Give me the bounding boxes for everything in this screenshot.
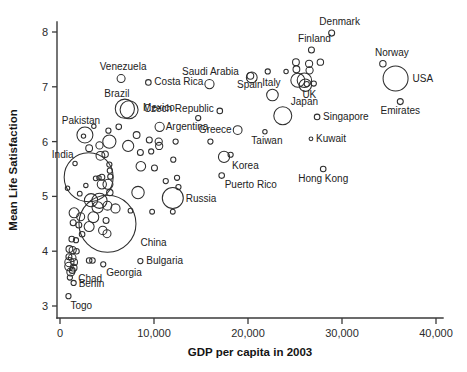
data-point-bubble	[96, 142, 103, 149]
data-point-bubble	[70, 220, 76, 226]
y-axis-tick-label: 6	[42, 136, 48, 148]
data-point-bubble-mexico	[120, 101, 138, 119]
x-axis-tick-label: 40,000	[419, 327, 453, 339]
data-point-bubble	[92, 202, 103, 213]
data-point-bubble	[97, 180, 106, 189]
data-point-bubble-china	[79, 195, 136, 252]
data-point-bubble	[69, 208, 79, 218]
data-point-bubble-argentina	[155, 122, 164, 131]
data-point-label-venezuela: Venezuela	[100, 61, 147, 72]
data-point-bubble	[103, 135, 116, 148]
data-point-bubble	[133, 132, 140, 139]
y-axis-title: Mean Life Satisfaction	[7, 109, 19, 230]
data-point-label-japan: Japan	[291, 96, 318, 107]
data-point-bubble	[150, 209, 155, 214]
data-point-bubble-singapore	[314, 114, 320, 120]
data-point-bubble	[174, 175, 179, 180]
data-point-bubble	[317, 59, 323, 65]
data-point-bubble-costa-rica	[146, 80, 152, 86]
data-point-bubble	[132, 186, 144, 198]
y-axis-tick-label: 7	[42, 81, 48, 93]
data-point-label-usa: USA	[413, 73, 434, 84]
data-point-bubble	[106, 128, 111, 133]
data-point-label-emirates: Emirates	[381, 105, 420, 116]
data-point-bubble	[103, 179, 113, 189]
data-point-bubble-usa	[383, 66, 408, 91]
y-axis-tick-label: 4	[42, 245, 48, 257]
data-point-label-hong-kong: Hong Kong	[298, 173, 348, 184]
chart-canvas: 345678010,00020,00030,00040,000 DenmarkF…	[0, 0, 467, 372]
data-point-label-spain: Spain	[237, 79, 263, 90]
scatter-chart: 345678010,00020,00030,00040,000 DenmarkF…	[0, 0, 467, 372]
data-point-bubble	[123, 140, 134, 151]
data-point-bubble-finland	[308, 47, 314, 53]
data-point-label-benin: Benin	[79, 278, 105, 289]
data-point-bubble-czech-republic	[217, 108, 223, 114]
data-point-bubble	[171, 157, 176, 162]
data-point-bubble	[173, 139, 178, 144]
data-point-bubble-japan	[274, 107, 292, 125]
x-axis-tick-label: 10,000	[137, 327, 171, 339]
data-point-bubble-russia	[162, 188, 183, 209]
data-point-label-togo: Togo	[70, 300, 92, 311]
data-point-label-denmark: Denmark	[319, 16, 361, 27]
data-point-bubble	[73, 161, 77, 165]
data-point-bubble-italy	[267, 89, 279, 101]
data-point-bubble	[84, 222, 94, 232]
data-point-label-norway: Norway	[375, 47, 409, 58]
data-point-bubble-kuwait	[309, 137, 313, 141]
data-point-bubble	[146, 137, 152, 143]
data-point-bubble	[293, 59, 300, 66]
data-point-label-costa-rica: Costa Rica	[154, 76, 203, 87]
data-point-bubble-georgia	[101, 262, 106, 267]
data-point-label-saudi-arabia: Saudi Arabia	[182, 66, 239, 77]
data-point-bubble	[116, 124, 122, 130]
data-point-bubble	[163, 178, 168, 183]
x-axis-tick-label: 0	[57, 327, 63, 339]
data-point-bubble	[293, 66, 300, 73]
data-point-bubble	[103, 218, 109, 224]
data-point-bubble-togo	[66, 294, 71, 299]
data-point-bubble	[137, 150, 143, 156]
data-point-bubble	[84, 183, 88, 187]
x-axis-title: GDP per capita in 2003	[188, 346, 312, 358]
x-axis-tick-label: 30,000	[325, 327, 359, 339]
data-point-label-india: India	[52, 149, 74, 160]
data-point-label-taiwan: Taiwan	[251, 135, 282, 146]
data-point-bubble-saudi-arabia	[205, 79, 214, 88]
data-point-label-kuwait: Kuwait	[316, 133, 346, 144]
data-point-bubble	[156, 142, 163, 149]
data-point-label-puerto-rico: Puerto Rico	[225, 179, 278, 190]
y-axis-tick-label: 8	[42, 26, 48, 38]
data-point-bubble	[108, 174, 113, 179]
data-point-label-pakistan: Pakistan	[62, 115, 100, 126]
data-point-bubble	[88, 212, 99, 223]
data-point-label-china: China	[140, 237, 167, 248]
data-point-bubble-hong-kong	[320, 166, 326, 172]
data-point-bubble-greece	[233, 126, 242, 135]
data-point-bubble	[291, 73, 305, 87]
data-point-bubble-benin	[71, 280, 76, 285]
data-point-bubble	[265, 69, 270, 74]
data-point-label-russia: Russia	[186, 193, 217, 204]
data-point-bubble-venezuela	[117, 75, 125, 83]
data-point-label-greece: Greece	[199, 124, 232, 135]
data-point-label-singapore: Singapore	[323, 111, 369, 122]
data-point-label-brazil: Brazil	[104, 88, 129, 99]
data-point-bubble	[111, 204, 120, 213]
y-axis-tick-label: 3	[42, 300, 48, 312]
data-point-bubble	[149, 149, 154, 154]
data-point-bubble-bulgaria	[138, 258, 143, 263]
y-axis-tick-label: 5	[42, 190, 48, 202]
data-point-bubble-taiwan	[263, 130, 267, 134]
data-point-label-bulgaria: Bulgaria	[146, 255, 183, 266]
data-point-bubble	[170, 209, 175, 214]
data-point-label-georgia: Georgia	[106, 267, 142, 278]
data-point-bubble	[304, 81, 309, 86]
data-point-bubble-norway	[380, 61, 386, 67]
data-point-bubble	[151, 165, 157, 171]
x-axis-tick-label: 20,000	[231, 327, 265, 339]
data-point-bubble	[81, 134, 85, 138]
data-point-label-korea: Korea	[232, 160, 259, 171]
data-point-label-finland: Finland	[298, 33, 331, 44]
